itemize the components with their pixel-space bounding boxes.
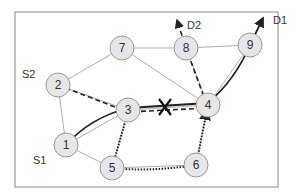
label-d2: D2 bbox=[187, 20, 201, 31]
node-label-2: 2 bbox=[48, 78, 68, 92]
node-label-7: 7 bbox=[112, 41, 132, 55]
link-failure-x-icon bbox=[159, 99, 171, 115]
primary-path-solid bbox=[66, 18, 263, 145]
label-s2: S2 bbox=[22, 69, 35, 80]
network-diagram: 123456789 S2 S1 D2 D1 bbox=[0, 0, 306, 196]
node-label-6: 6 bbox=[186, 158, 206, 172]
node-label-9: 9 bbox=[240, 38, 260, 52]
secondary-path-dashed bbox=[58, 20, 208, 112]
node-label-1: 1 bbox=[56, 138, 76, 152]
diagram-canvas bbox=[0, 0, 306, 196]
node-label-8: 8 bbox=[176, 41, 196, 55]
label-s1: S1 bbox=[33, 155, 46, 166]
node-label-5: 5 bbox=[102, 161, 122, 175]
diagram-frame bbox=[15, 12, 278, 187]
label-d1: D1 bbox=[273, 15, 287, 26]
node-label-4: 4 bbox=[198, 98, 218, 112]
node-label-3: 3 bbox=[118, 103, 138, 117]
